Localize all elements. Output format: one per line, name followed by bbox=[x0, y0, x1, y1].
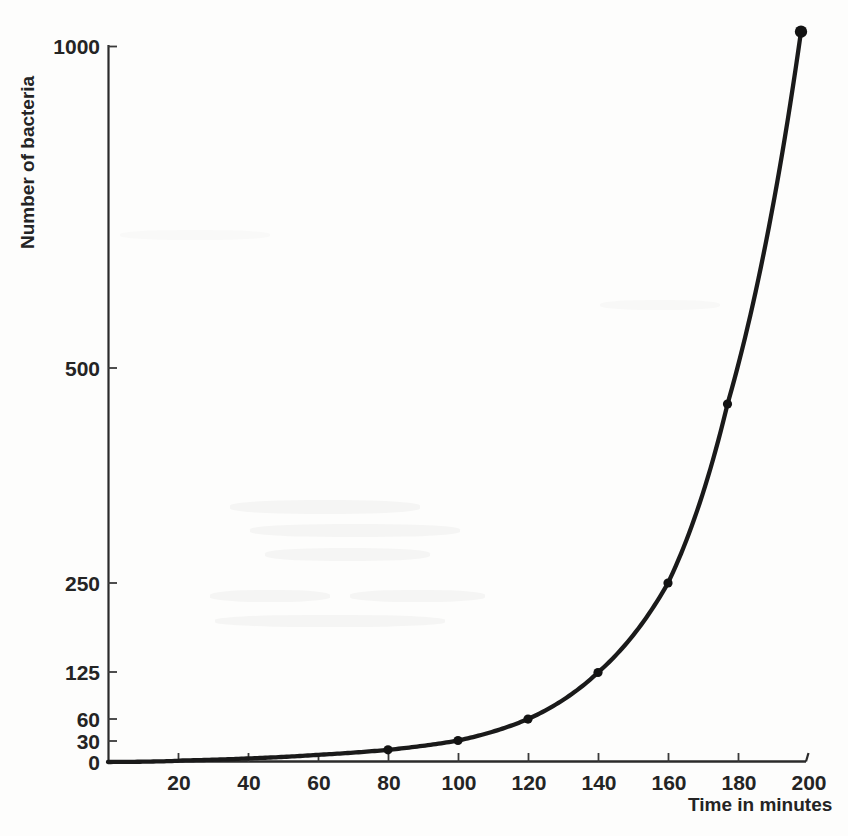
data-point-marker bbox=[663, 578, 672, 587]
x-tick-label-160: 160 bbox=[638, 772, 700, 793]
x-tick-label-80: 80 bbox=[358, 772, 420, 793]
y-tick-label-60: 60 bbox=[28, 709, 100, 730]
y-tick-label-0: 0 bbox=[28, 752, 100, 773]
bacteria-growth-chart: 1000 500 250 125 60 30 0 20 40 60 80 100… bbox=[0, 0, 848, 836]
x-tick-label-140: 140 bbox=[568, 772, 630, 793]
growth-curve bbox=[108, 32, 801, 762]
data-point-marker bbox=[383, 745, 392, 754]
y-tick-label-250: 250 bbox=[28, 573, 100, 594]
y-tick-label-1000: 1000 bbox=[28, 36, 100, 57]
plot-canvas bbox=[0, 0, 848, 836]
data-point-marker bbox=[523, 714, 532, 723]
y-tick-label-30: 30 bbox=[28, 731, 100, 752]
x-tick-label-120: 120 bbox=[498, 772, 560, 793]
data-point-marker bbox=[795, 25, 807, 37]
x-tick-label-100: 100 bbox=[428, 772, 490, 793]
y-axis-title: Number of bacteria bbox=[17, 76, 38, 249]
x-tick-label-200: 200 bbox=[778, 772, 840, 793]
x-axis-title: Time in minutes bbox=[688, 794, 832, 815]
x-tick-label-180: 180 bbox=[708, 772, 770, 793]
y-tick-label-125: 125 bbox=[28, 662, 100, 683]
y-tick-label-500: 500 bbox=[28, 358, 100, 379]
x-axis-end-cap bbox=[806, 753, 809, 762]
x-tick-label-20: 20 bbox=[148, 772, 210, 793]
x-tick-label-40: 40 bbox=[218, 772, 280, 793]
x-tick-label-60: 60 bbox=[288, 772, 350, 793]
data-point-marker bbox=[453, 736, 462, 745]
data-point-marker bbox=[593, 668, 602, 677]
data-point-marker bbox=[723, 399, 732, 408]
data-point-markers bbox=[383, 25, 807, 754]
